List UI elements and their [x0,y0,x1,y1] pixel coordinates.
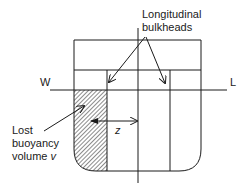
lost-buoyancy-label-line2: buoyancy [12,137,59,149]
ship-cross-section-diagram [0,0,251,194]
waterline-label-l: L [230,76,236,88]
lost-buoyancy-label-line3: volume v [12,150,56,162]
waterline-label-w: W [40,76,50,88]
bulkheads-label-line1: Longitudinal [142,8,201,20]
bulkhead-pointer-left [109,37,145,82]
lost-buoyancy-region [74,90,107,171]
bulkhead-pointer-right [146,37,165,83]
lever-arm-z-label: z [115,124,121,136]
lost-buoyancy-label-prefix: volume [12,150,51,162]
volume-variable: v [51,150,57,162]
lost-buoyancy-label-line1: Lost [12,124,33,136]
bulkheads-label-line2: bulkheads [142,21,192,33]
